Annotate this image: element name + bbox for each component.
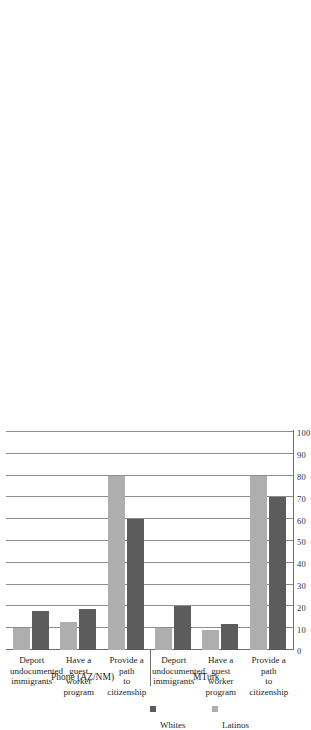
bar-latinos bbox=[108, 476, 125, 650]
group-label: MTurk bbox=[193, 672, 220, 682]
bar-latinos bbox=[250, 476, 267, 650]
bar-latinos bbox=[13, 628, 30, 650]
category-axis bbox=[293, 430, 294, 650]
category-label: Provide a path to citizenship bbox=[247, 655, 290, 697]
axis-tick-label: 80 bbox=[297, 472, 306, 482]
legend-label: Whites bbox=[160, 720, 186, 730]
bar-latinos bbox=[202, 630, 219, 650]
category-label: Deport undocumented immigrants bbox=[152, 655, 195, 687]
bar-whites bbox=[127, 519, 144, 650]
bar-whites bbox=[174, 606, 191, 650]
axis-tick-label: 20 bbox=[297, 603, 306, 613]
chart-root: 0102030405060708090100Deport undocumente… bbox=[0, 0, 310, 688]
axis-tick-label: 0 bbox=[297, 647, 301, 657]
axis-tick-label: 70 bbox=[297, 494, 306, 504]
group-label: Phone (AZ/NM) bbox=[51, 672, 114, 682]
axis-tick-label: 100 bbox=[297, 429, 310, 439]
bar-latinos bbox=[155, 628, 172, 650]
axis-tick-label: 50 bbox=[297, 538, 306, 548]
gridline-100 bbox=[6, 431, 293, 432]
plot-area: 0102030405060708090100Deport undocumente… bbox=[0, 0, 310, 688]
group-separator bbox=[150, 649, 151, 686]
bar-whites bbox=[79, 609, 96, 650]
gridline-90 bbox=[6, 453, 293, 454]
bar-whites bbox=[32, 611, 49, 650]
legend-label: Latinos bbox=[222, 720, 249, 730]
axis-tick-label: 90 bbox=[297, 450, 306, 460]
axis-tick-label: 30 bbox=[297, 581, 306, 591]
legend-swatch-whites bbox=[150, 706, 156, 712]
axis-tick-label: 60 bbox=[297, 516, 306, 526]
bar-latinos bbox=[60, 622, 77, 650]
category-label: Deport undocumented immigrants bbox=[10, 655, 53, 687]
rotated-chart-canvas: 0102030405060708090100Deport undocumente… bbox=[0, 0, 310, 688]
axis-tick-label: 10 bbox=[297, 625, 306, 635]
axis-tick-label: 40 bbox=[297, 559, 306, 569]
legend-swatch-latinos bbox=[212, 706, 218, 712]
bar-whites bbox=[221, 624, 238, 650]
bar-whites bbox=[269, 497, 286, 650]
